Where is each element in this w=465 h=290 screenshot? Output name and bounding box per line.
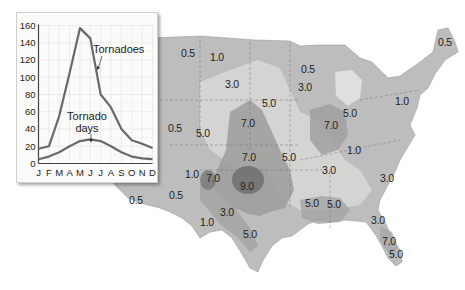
annotation-tornadoes: Tornadoes — [93, 43, 145, 55]
y-tick-label: 60 — [25, 106, 36, 117]
contour-label: 0.5 — [301, 63, 315, 75]
arrow-head-icon — [97, 66, 101, 71]
contour-label: 1.0 — [185, 168, 199, 180]
x-tick-label: J — [36, 167, 41, 178]
contour-label: 9.0 — [240, 180, 254, 192]
contour-label: 5.0 — [262, 97, 276, 109]
tornado-chart-inset: 020406080100120140160JFMAMJJASONDTornado… — [16, 12, 158, 183]
contour-label: 1.0 — [347, 144, 361, 156]
x-tick-label: F — [46, 167, 52, 178]
annotation-tornado-days-line1: Tornado — [67, 110, 107, 122]
x-tick-label: M — [55, 167, 63, 178]
x-tick-label: S — [118, 167, 124, 178]
contour-label: 5.0 — [282, 151, 296, 163]
y-tick-label: 0 — [30, 158, 35, 169]
contour-label: 3.0 — [371, 214, 385, 226]
y-tick-label: 120 — [20, 54, 36, 65]
contour-label: 1.0 — [200, 216, 214, 228]
contour-label: 7.0 — [242, 151, 256, 163]
y-tick-label: 140 — [20, 37, 36, 48]
contour-label: 0.5 — [168, 122, 182, 134]
y-tick-label: 40 — [25, 123, 36, 134]
contour-label: 3.0 — [380, 172, 394, 184]
contour-label: 5.0 — [327, 198, 341, 210]
contour-label: 3.0 — [225, 78, 239, 90]
contour-label: 0.5 — [181, 47, 195, 59]
contour-label: 3.0 — [220, 206, 234, 218]
x-tick-label: M — [76, 167, 84, 178]
annotation-tornado-days-line2: days — [75, 122, 99, 134]
contour-label: 7.0 — [324, 119, 338, 131]
y-tick-label: 80 — [25, 89, 36, 100]
contour-label: 7.0 — [382, 235, 396, 247]
x-tick-label: A — [108, 167, 115, 178]
x-tick-label: D — [149, 167, 156, 178]
contour-label: 5.0 — [389, 248, 403, 260]
contour-label: 5.0 — [343, 107, 357, 119]
tornado-line-chart: 020406080100120140160JFMAMJJASONDTornado… — [17, 13, 157, 182]
contour-label: 5.0 — [196, 127, 210, 139]
x-tick-label: O — [128, 167, 135, 178]
contour-label: 7.0 — [241, 117, 255, 129]
contour-label: 7.0 — [206, 172, 220, 184]
y-tick-label: 160 — [20, 20, 36, 31]
x-tick-label: J — [98, 167, 103, 178]
x-tick-label: A — [66, 167, 73, 178]
x-tick-label: N — [139, 167, 146, 178]
y-tick-label: 100 — [20, 72, 36, 83]
contour-label: 0.5 — [169, 189, 183, 201]
contour-label: 5.0 — [243, 228, 257, 240]
contour-label: 0.5 — [438, 36, 452, 48]
contour-label: 0.5 — [129, 194, 143, 206]
x-tick-label: J — [88, 167, 93, 178]
contour-label: 5.0 — [305, 197, 319, 209]
contour-label: 1.0 — [210, 51, 224, 63]
contour-label: 3.0 — [322, 164, 336, 176]
y-tick-label: 20 — [25, 141, 36, 152]
contour-label: 3.0 — [298, 81, 312, 93]
contour-label: 1.0 — [395, 95, 409, 107]
